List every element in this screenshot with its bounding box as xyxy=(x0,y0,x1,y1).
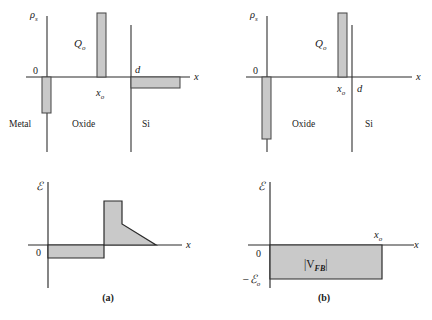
region-label-oxide: Oxide xyxy=(72,119,95,129)
y-axis-label-field: ℰ xyxy=(258,180,266,192)
x-axis-label: x xyxy=(185,239,191,250)
region-label-oxide: Oxide xyxy=(292,119,315,129)
region-label-metal: Metal xyxy=(9,119,32,129)
panel-b-electric-field: ℰ 0 x xo −ℰo |VFB| (b) xyxy=(216,160,432,320)
panel-a-charge-density: ρs 0 x Qo xo d Metal Oxide Si xyxy=(0,0,216,160)
tick-label-neg-field-o: −ℰo xyxy=(242,273,261,288)
panel-caption-a: (a) xyxy=(78,292,138,303)
y-axis-label-rho: ρs xyxy=(29,9,38,23)
y-axis-label-field: ℰ xyxy=(36,180,44,192)
label-oxide-charge-Qo: Qo xyxy=(315,37,327,52)
region-label-si: Si xyxy=(142,119,150,129)
bar-metal-charge xyxy=(42,77,51,113)
tick-label-zero: 0 xyxy=(36,247,41,258)
panel-a-electric-field: ℰ 0 x (a) xyxy=(0,160,216,320)
tick-label-xo: xo xyxy=(373,229,383,243)
tick-label-d: d xyxy=(357,83,363,94)
x-axis-label: x xyxy=(193,71,199,82)
label-oxide-charge-Qo: Qo xyxy=(74,37,86,52)
x-axis-label: x xyxy=(415,71,421,82)
y-axis-label-rho: ρs xyxy=(249,9,258,23)
bar-si-charge xyxy=(131,77,180,88)
region-label-si: Si xyxy=(365,119,373,129)
bar-metal-charge xyxy=(262,77,271,139)
tick-label-zero: 0 xyxy=(253,65,258,76)
field-area-positive xyxy=(104,201,156,245)
x-axis-label: x xyxy=(413,239,419,250)
tick-label-xo: xo xyxy=(336,83,346,97)
tick-label-zero: 0 xyxy=(256,248,261,259)
tick-label-xo: xo xyxy=(95,87,105,101)
bar-oxide-charge xyxy=(97,13,106,77)
figure-container: ρs 0 x Qo xo d Metal Oxide Si ρs xyxy=(0,0,432,320)
tick-label-zero: 0 xyxy=(33,65,38,76)
panel-b-charge-density: ρs 0 x Qo xo d Oxide Si xyxy=(216,0,432,160)
field-area-negative xyxy=(48,245,104,258)
bar-oxide-charge xyxy=(338,13,347,77)
panel-caption-b: (b) xyxy=(294,292,354,303)
tick-label-d: d xyxy=(135,64,141,75)
